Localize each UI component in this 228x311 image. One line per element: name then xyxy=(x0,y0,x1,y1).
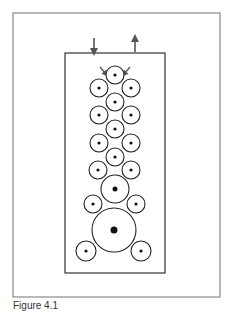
roller-axle xyxy=(97,113,100,116)
roller xyxy=(106,120,124,138)
roller xyxy=(92,208,136,252)
roller xyxy=(90,79,108,97)
roller xyxy=(106,93,124,111)
roller xyxy=(122,161,140,179)
roller-axle xyxy=(113,155,116,158)
roller xyxy=(122,79,140,97)
roller xyxy=(89,161,107,179)
roller-axle xyxy=(97,86,100,89)
roller-axle xyxy=(129,113,132,116)
figure-caption: Figure 4.1 xyxy=(13,300,58,311)
roller xyxy=(122,134,140,152)
roller-axle xyxy=(96,168,99,171)
roller-axle xyxy=(113,187,118,192)
roller-axle xyxy=(134,202,137,205)
roller xyxy=(106,66,124,84)
roller xyxy=(76,241,96,261)
roller-axle xyxy=(113,73,116,76)
roller-axle xyxy=(111,227,118,234)
nip-arrow-left-icon xyxy=(100,67,106,74)
roller-axle xyxy=(113,127,116,130)
roller xyxy=(127,195,145,213)
roller-axle xyxy=(129,168,132,171)
roller xyxy=(90,134,108,152)
feed-arrows xyxy=(94,38,135,52)
roller xyxy=(90,106,108,124)
roller xyxy=(106,148,124,166)
roller-stack xyxy=(76,66,151,261)
roller-axle xyxy=(113,100,116,103)
roller-axle xyxy=(97,141,100,144)
roller-axle xyxy=(129,86,132,89)
roller xyxy=(101,175,129,203)
roller xyxy=(84,195,102,213)
roller xyxy=(131,241,151,261)
roller-axle xyxy=(139,249,142,252)
nip-arrow-right-icon xyxy=(124,67,130,74)
roller-axle xyxy=(91,202,94,205)
roller xyxy=(122,106,140,124)
roller-axle xyxy=(129,141,132,144)
roller-axle xyxy=(84,249,87,252)
